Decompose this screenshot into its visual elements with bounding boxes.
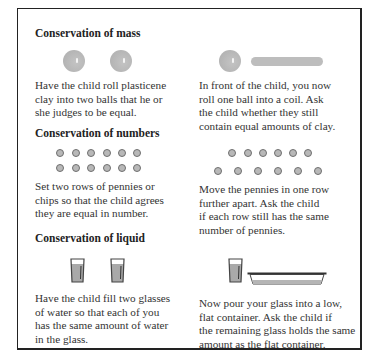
penny-icon	[118, 149, 126, 157]
text-line: chips so that the child agrees	[35, 194, 164, 208]
text-line: number of pennies.	[199, 224, 329, 238]
penny-icon	[304, 149, 312, 157]
text-line: Move the pennies in one row	[199, 183, 329, 197]
text-line: amount as the flat container.	[199, 338, 355, 352]
text-line: Set two rows of pennies or	[35, 180, 164, 194]
heading-conservation-of-numbers: Conservation of numbers	[35, 127, 160, 139]
penny-icon	[103, 149, 111, 157]
text-line: Now pour your glass into a low,	[199, 297, 355, 311]
penny-icon	[56, 164, 64, 172]
penny-icon	[289, 149, 297, 157]
penny-icon	[118, 164, 126, 172]
text-line: if each row still has the same	[199, 210, 329, 224]
text-line: further apart. Ask the child	[199, 197, 329, 211]
heading-conservation-of-mass: Conservation of mass	[35, 27, 140, 39]
penny-icon	[228, 149, 236, 157]
penny-icon	[259, 149, 267, 157]
text-line: the child whether they still	[199, 106, 335, 120]
liquid-left-text: Have the child fill two glasses of water…	[35, 292, 170, 346]
text-line: she judges to be equal.	[35, 106, 166, 120]
numbers-left-text: Set two rows of pennies or chips so that…	[35, 180, 164, 221]
clay-ball-icon	[110, 50, 132, 72]
clay-ball-icon	[219, 50, 241, 72]
numbers-right-text: Move the pennies in one row further apar…	[199, 183, 329, 237]
penny-icon	[56, 149, 64, 157]
penny-icon	[294, 167, 302, 175]
clay-ball-icon	[63, 50, 85, 72]
penny-icon	[87, 149, 95, 157]
text-line: In front of the child, you now	[199, 79, 335, 93]
text-line: the remaining glass holds the same	[199, 324, 355, 338]
text-line: they are equal in number.	[35, 207, 164, 221]
penny-icon	[214, 167, 222, 175]
text-line: roll one ball into a coil. Ask	[199, 93, 335, 107]
flat-container-icon	[247, 272, 327, 285]
water-glass-icon	[70, 258, 85, 283]
penny-icon	[72, 164, 80, 172]
mass-left-text: Have the child roll plasticene clay into…	[35, 79, 166, 120]
liquid-right-text: Now pour your glass into a low, flat con…	[199, 297, 355, 351]
text-line: clay into two balls that he or	[35, 93, 166, 107]
text-line: of water so that each of you	[35, 306, 170, 320]
water-glass-icon	[228, 258, 243, 283]
penny-icon	[133, 149, 141, 157]
mass-right-text: In front of the child, you now roll one …	[199, 79, 335, 133]
penny-icon	[103, 164, 111, 172]
penny-icon	[314, 167, 322, 175]
penny-icon	[244, 149, 252, 157]
clay-coil-icon	[251, 57, 323, 66]
heading-conservation-of-liquid: Conservation of liquid	[35, 232, 145, 244]
penny-icon	[72, 149, 80, 157]
penny-icon	[254, 167, 262, 175]
text-line: has the same amount of water	[35, 319, 170, 333]
penny-icon	[133, 164, 141, 172]
penny-icon	[274, 167, 282, 175]
water-glass-icon	[110, 258, 125, 283]
penny-icon	[274, 149, 282, 157]
penny-icon	[234, 167, 242, 175]
text-line: contain equal amounts of clay.	[199, 120, 335, 134]
penny-icon	[87, 164, 95, 172]
text-line: Have the child roll plasticene	[35, 79, 166, 93]
text-line: in the glass.	[35, 333, 170, 347]
text-line: Have the child fill two glasses	[35, 292, 170, 306]
text-line: flat container. Ask the child if	[199, 311, 355, 325]
